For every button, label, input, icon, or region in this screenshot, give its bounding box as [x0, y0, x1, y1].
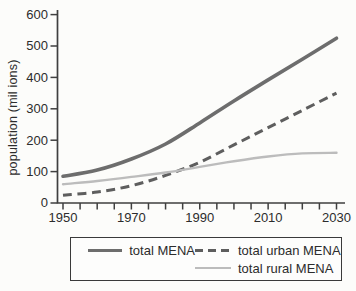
y-tick-label: 500 — [26, 38, 48, 53]
legend-item-total-rural-mena: total rural MENA — [195, 261, 341, 276]
series-line-total-mena — [63, 38, 337, 176]
legend-label-total-mena: total MENA — [129, 243, 195, 258]
y-tick-label: 200 — [26, 133, 48, 148]
line-chart-plot: 010020030040050060019501970199020102030 — [0, 0, 356, 232]
x-tick-label: 1990 — [185, 210, 214, 225]
x-tick-label: 1970 — [117, 210, 146, 225]
legend-box: total MENA total urban MENA total rural … — [70, 237, 342, 281]
dashed-dark-line-swatch-icon — [195, 249, 231, 252]
y-tick-label: 400 — [26, 70, 48, 85]
solid-light-line-swatch-icon — [195, 267, 231, 269]
solid-dark-line-swatch-icon — [88, 249, 122, 252]
legend-label-total-urban-mena: total urban MENA — [238, 243, 341, 258]
y-tick-label: 0 — [41, 195, 48, 210]
y-tick-label: 100 — [26, 164, 48, 179]
axes — [58, 10, 346, 203]
legend-label-total-rural-mena: total rural MENA — [238, 261, 333, 276]
x-tick-label: 2010 — [254, 210, 283, 225]
legend-item-total-mena: total MENA — [88, 243, 195, 258]
chart-figure: population (mil ions) 010020030040050060… — [0, 0, 356, 291]
x-tick-label: 1950 — [49, 210, 78, 225]
y-tick-label: 600 — [26, 7, 48, 22]
x-tick-label: 2030 — [322, 210, 351, 225]
page: { "figure": { "background": "#fcfcfa", "… — [0, 0, 356, 291]
y-tick-label: 300 — [26, 101, 48, 116]
legend-item-total-urban-mena: total urban MENA — [195, 243, 341, 258]
